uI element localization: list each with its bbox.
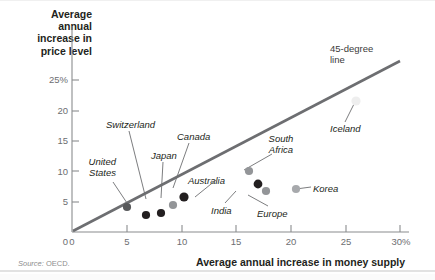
figure-bottom-border xyxy=(0,270,435,272)
data-point-switzerland xyxy=(142,211,150,219)
reference-line-45-degree xyxy=(73,61,400,231)
y-tick-marks xyxy=(72,80,79,202)
figure-bottom-shadow xyxy=(0,274,435,280)
leader-line-united-states xyxy=(113,182,127,203)
data-point-korea xyxy=(292,185,300,193)
data-point-australia xyxy=(179,192,188,201)
data-point-iceland xyxy=(351,96,360,105)
data-point-europe xyxy=(262,187,270,195)
chart-figure: Average annual increase in price level A… xyxy=(0,0,435,280)
leader-line-japan xyxy=(161,162,163,198)
plot-area xyxy=(0,0,435,280)
leader-line-india xyxy=(225,191,236,203)
leader-line-iceland xyxy=(345,104,354,122)
data-point-india xyxy=(254,180,263,189)
leader-line-canada xyxy=(173,143,189,188)
leader-line-europe xyxy=(248,195,268,206)
data-point-canada xyxy=(169,201,177,209)
data-point-south-africa xyxy=(245,167,253,175)
leader-line-australia xyxy=(195,180,216,197)
data-point-japan xyxy=(157,209,165,217)
x-tick-marks xyxy=(127,225,400,232)
leader-line-switzerland xyxy=(129,131,146,199)
data-point-united-states xyxy=(123,203,131,211)
